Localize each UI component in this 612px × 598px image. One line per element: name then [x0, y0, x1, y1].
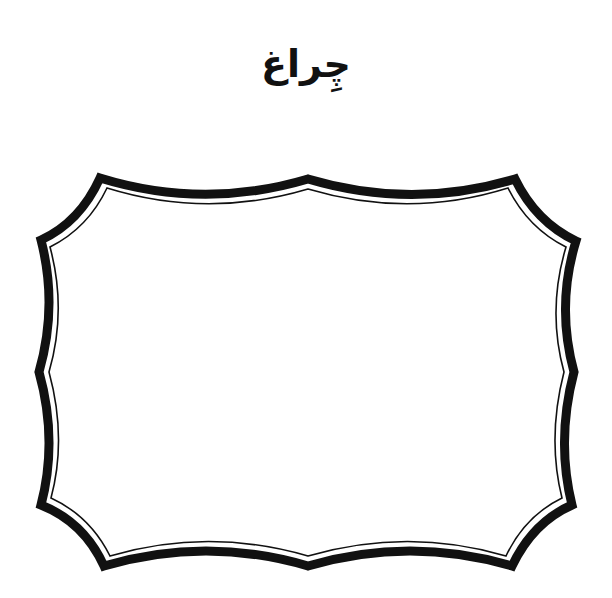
decorative-frame	[0, 0, 612, 598]
frame-inner-line	[49, 188, 566, 556]
